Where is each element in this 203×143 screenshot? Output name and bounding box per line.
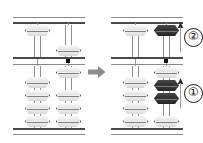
bead-heaven-units[interactable]	[154, 24, 179, 37]
bottom-frame-outer-rail	[111, 134, 183, 135]
step-marker-2: ②	[177, 22, 203, 52]
bead-earth-units-1[interactable]	[56, 66, 81, 79]
step-marker-1: ①	[177, 78, 203, 108]
unit-dot-marker	[164, 59, 168, 63]
bead-heaven-units[interactable]	[56, 44, 81, 57]
top-frame-outer-rail	[13, 17, 85, 18]
bottom-frame-inner-rail	[111, 128, 183, 130]
bead-earth-units-2[interactable]	[154, 79, 179, 92]
bead-earth-tens-4[interactable]	[123, 115, 148, 128]
up-arrow-icon	[177, 78, 184, 108]
unit-dot-marker	[66, 59, 70, 63]
abacus-before	[13, 17, 85, 130]
bead-heaven-tens[interactable]	[123, 24, 148, 37]
top-frame-inner-rail	[13, 22, 85, 24]
reckoning-bar-lower	[13, 64, 85, 65]
reckoning-bar-upper	[13, 57, 85, 59]
bead-earth-units-1[interactable]	[154, 66, 179, 79]
reckoning-bar-lower	[111, 64, 183, 65]
top-frame-inner-rail	[111, 22, 183, 24]
bead-earth-tens-3[interactable]	[123, 102, 148, 115]
bead-earth-tens-2[interactable]	[25, 89, 50, 102]
bead-earth-tens-3[interactable]	[25, 102, 50, 115]
step-marker-2-label: ②	[184, 28, 203, 47]
bead-earth-tens-1[interactable]	[123, 76, 148, 89]
bead-earth-tens-1[interactable]	[25, 76, 50, 89]
bottom-frame-inner-rail	[13, 128, 85, 130]
up-arrow-icon	[177, 22, 184, 52]
bead-earth-units-4[interactable]	[154, 115, 179, 128]
bead-heaven-tens[interactable]	[25, 24, 50, 37]
bead-earth-units-4[interactable]	[56, 115, 81, 128]
bead-earth-units-3[interactable]	[154, 92, 179, 105]
bead-earth-tens-2[interactable]	[123, 89, 148, 102]
abacus-diagram: ② ①	[0, 0, 203, 143]
reckoning-bar-upper	[111, 57, 183, 59]
bead-earth-units-2[interactable]	[56, 89, 81, 102]
bead-earth-tens-4[interactable]	[25, 115, 50, 128]
step-marker-1-label: ①	[184, 84, 203, 103]
transition-right-arrow-icon	[88, 65, 106, 79]
bottom-frame-outer-rail	[13, 134, 85, 135]
bead-earth-units-3[interactable]	[56, 102, 81, 115]
abacus-after	[111, 17, 183, 130]
top-frame-outer-rail	[111, 17, 183, 18]
